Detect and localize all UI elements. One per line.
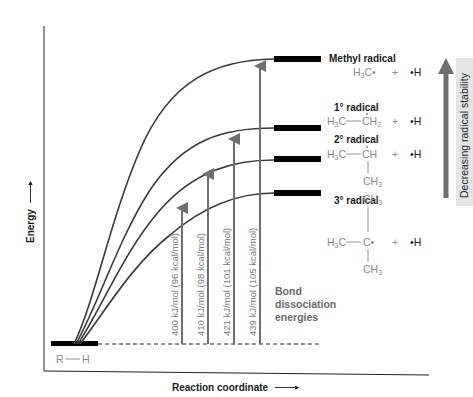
level-bar-methyl [274, 56, 321, 62]
bde-label-tertiary: 400 kJ/mol (96 kcal/mol) [169, 233, 180, 336]
bde-title: Bond dissociation energies [275, 285, 336, 323]
y-axis-label-group: Energy [25, 183, 36, 243]
svg-text:•H: •H [410, 236, 421, 248]
primary-right: CH2 [362, 115, 381, 128]
x-axis [44, 371, 429, 375]
stability-arrow-up-icon [438, 58, 454, 74]
reactant-h: H [82, 353, 90, 365]
stability-indicator: Decreasing radical stability [438, 58, 473, 206]
level-bar-primary [274, 125, 321, 131]
svg-text:dissociation: dissociation [275, 298, 336, 310]
energy-diagram: Energy Reaction coordinate R H 400 kJ/mo… [0, 0, 473, 397]
methyl-radical-group: Methyl radical H3C• + •H [329, 53, 421, 79]
bde-label-primary: 421 kJ/mol (101 kcal/mol) [221, 228, 232, 336]
svg-text:H3C: H3C [327, 236, 347, 249]
x-axis-label: Reaction coordinate [172, 382, 269, 393]
methyl-formula: H3C• [353, 66, 376, 79]
svg-text:+: + [392, 236, 398, 248]
y-axis-label: Energy [25, 209, 36, 243]
svg-text:CH3: CH3 [363, 175, 382, 188]
svg-text:C•: C• [363, 236, 375, 248]
stability-label: Decreasing radical stability [458, 72, 470, 198]
svg-text:CH: CH [362, 148, 377, 160]
primary-radical-group: 1° radical H3C CH2 + •H [327, 102, 421, 128]
svg-text:•H: •H [410, 115, 421, 127]
secondary-radical-title: 2° radical [334, 134, 379, 145]
svg-text:Bond: Bond [275, 285, 302, 297]
bde-label-methyl: 439 kJ/mol (105 kcal/mol) [247, 228, 258, 336]
primary-left: H3C [327, 115, 347, 128]
level-bar-tertiary [274, 190, 321, 196]
svg-text:•H: •H [410, 148, 421, 160]
svg-text:+: + [392, 148, 398, 160]
bde-label-secondary: 410 kJ/mol (98 kcal/mol) [195, 233, 206, 336]
svg-text:CH3: CH3 [363, 193, 382, 206]
secondary-radical-group: 2° radical H3C CH CH3 + •H [327, 134, 421, 188]
methyl-plus: + [392, 66, 398, 78]
svg-text:CH3: CH3 [363, 263, 382, 276]
svg-text:H3C: H3C [327, 148, 347, 161]
svg-text:energies: energies [275, 311, 318, 323]
methyl-h-radical: •H [410, 66, 421, 78]
primary-radical-title: 1° radical [334, 102, 379, 113]
level-bar-secondary [274, 156, 321, 162]
tertiary-radical-group: 3° radical CH3 H3C C• CH3 + •H [327, 193, 421, 276]
reactant-r: R [56, 353, 64, 365]
product-level-bars [274, 56, 321, 196]
methyl-radical-title: Methyl radical [329, 53, 396, 64]
svg-text:+: + [392, 115, 398, 127]
